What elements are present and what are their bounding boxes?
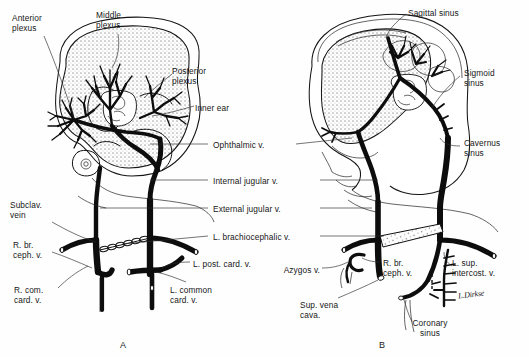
panel-letter-a: A: [120, 340, 126, 350]
panel-letter-b: B: [379, 340, 385, 350]
label-sagittal-sinus: Sagittal sinus: [408, 8, 459, 18]
panel-a-artwork: [48, 17, 200, 240]
label-sup-vena-cava: Sup. vena cava.: [300, 300, 338, 320]
label-l-sup-intercost-v: L. sup. intercost. v.: [452, 258, 495, 278]
label-anterior-plexus: Anterior plexus: [12, 13, 42, 33]
anatomical-plate: Anterior plexus Middle plexus Subclav. v…: [0, 0, 529, 357]
label-l-post-card-v: L. post. card. v.: [193, 259, 251, 269]
label-sigmoid-sinus: Sigmoid sinus: [464, 68, 495, 88]
label-coronary-sinus: Coronary sinus: [402, 318, 458, 338]
label-subclavian-vein: Subclav. vein: [10, 200, 42, 220]
optic-vesicle-a: [72, 150, 99, 176]
label-l-common-card-v: L. common card. v.: [170, 285, 212, 305]
label-external-jugular-v: External jugular v.: [213, 204, 281, 214]
panel-b-artwork: [309, 14, 498, 232]
label-cavernus-sinus: Cavernus sinus: [464, 138, 500, 158]
brachiocephalic-band-b: [380, 224, 443, 247]
label-ophthalmic-v: Ophthalmic v.: [213, 140, 264, 150]
label-middle-plexus: Middle plexus: [96, 10, 121, 30]
label-inner-ear: Inner ear: [195, 103, 229, 113]
label-internal-jugular-v: Internal jugular v.: [213, 176, 278, 186]
label-r-com-card-v: R. com. card. v.: [14, 285, 43, 305]
label-posterior-plexus: Posterior plexus: [172, 66, 206, 86]
label-azygos-v: Azygos v.: [272, 265, 320, 275]
label-r-br-ceph-v: R. br. ceph. v.: [13, 240, 42, 260]
label-r-br-ceph-v-b: R. br. ceph. v.: [383, 258, 412, 278]
label-l-brachiocephalic-v: L. brachiocephalic v.: [213, 232, 290, 242]
